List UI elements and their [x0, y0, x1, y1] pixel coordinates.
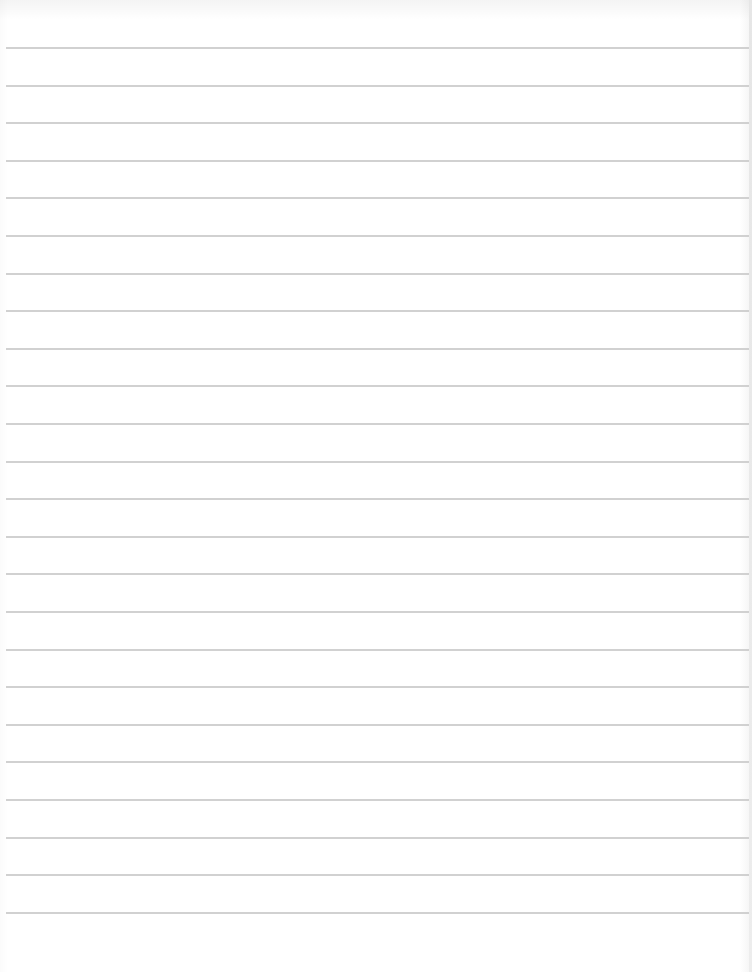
ruled-line — [6, 498, 752, 500]
ruled-line — [6, 611, 752, 613]
ruled-line — [6, 47, 752, 49]
ruled-line — [6, 85, 752, 87]
ruled-line — [6, 837, 752, 839]
ruled-line — [6, 273, 752, 275]
ruled-line — [6, 573, 752, 575]
ruled-line — [6, 761, 752, 763]
ruled-line — [6, 423, 752, 425]
ruled-line — [6, 348, 752, 350]
ruled-line — [6, 536, 752, 538]
ruled-line — [6, 799, 752, 801]
ruled-line — [6, 724, 752, 726]
ruled-line — [6, 235, 752, 237]
ruled-paper-sheet — [0, 0, 752, 972]
ruled-line — [6, 385, 752, 387]
ruled-line — [6, 874, 752, 876]
ruled-line — [6, 310, 752, 312]
ruled-line — [6, 122, 752, 124]
ruled-line — [6, 912, 752, 914]
ruled-line — [6, 461, 752, 463]
ruled-line — [6, 197, 752, 199]
ruled-line — [6, 649, 752, 651]
ruled-line — [6, 686, 752, 688]
ruled-line — [6, 160, 752, 162]
top-bleed-through — [0, 0, 752, 20]
